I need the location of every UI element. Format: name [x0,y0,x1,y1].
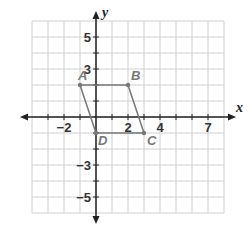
y-axis-label: y [100,5,109,20]
point-c [142,131,146,135]
y-arrow-up-icon [93,11,100,19]
x-tick-label: −2 [57,120,72,135]
x-axis-label: x [235,100,243,115]
point-b [126,83,130,87]
x-arrow-right-icon [228,114,236,121]
point-a-label: A [77,68,87,83]
point-b-label: B [131,68,140,83]
y-tick-label: 5 [84,30,91,45]
x-tick-label: 4 [156,120,164,135]
coordinate-plane: −224753−3−5 ABCD x y [0,0,250,231]
point-d-label: D [98,133,108,148]
y-tick-label: −5 [76,190,91,205]
y-arrow-down-icon [93,216,100,224]
x-arrow-left-icon [20,114,28,121]
point-a [78,83,82,87]
y-tick-label: −3 [76,158,91,173]
x-tick-label: 7 [204,120,211,135]
point-c-label: C [147,133,157,148]
parallelogram: ABCD [77,68,157,148]
